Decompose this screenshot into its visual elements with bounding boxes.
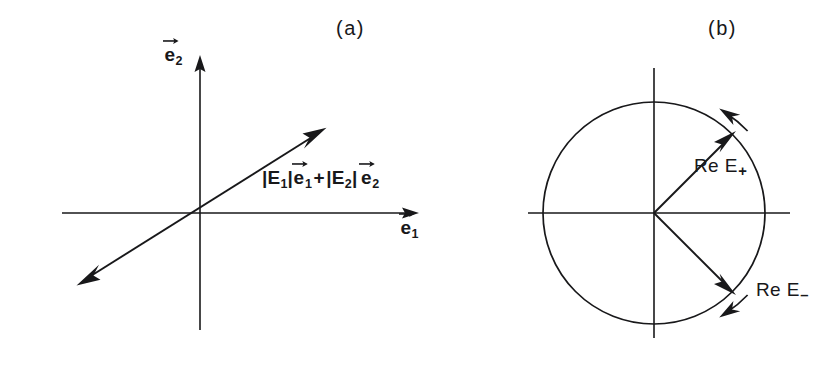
panel-b-graphics: [528, 68, 790, 338]
unit-e1-sub: 1: [305, 177, 312, 191]
panel-a-axis-label-e1-base: e: [401, 217, 412, 238]
re-e-minus-sign: –: [800, 287, 809, 303]
panel-a-graphics: [62, 55, 419, 330]
re-e-plus-prefix: Re E: [694, 155, 738, 176]
unit-e2-sub: 2: [372, 177, 379, 191]
panel-b-re-e-plus-label: Re E+: [694, 156, 747, 175]
panel-a-field-vector-line: [86, 134, 317, 279]
vector-accent-group: e: [400, 218, 412, 237]
vector-accent-group: e: [360, 168, 372, 187]
re-e-plus-sign: +: [738, 163, 748, 179]
panel-a-axis-label-e2-base: e: [165, 44, 176, 65]
panel-b-rotation-arrowhead-cw-icon: [719, 301, 740, 317]
abs-e2-close: |: [352, 167, 358, 188]
vector-accent-group: e: [293, 168, 305, 187]
panel-a-axis-label-e2: e2: [164, 45, 183, 64]
panel-b-re-e-minus-label: Re E–: [756, 280, 809, 299]
panel-b-re-e-minus-vector: [654, 213, 748, 317]
panel-a-x-axis: [62, 208, 419, 219]
abs-e2-open: |E: [326, 167, 344, 188]
figure-container: (a) (b) e2 e1 |E1|e1+|E2|e2 Re E+ Re E–: [0, 0, 835, 376]
figure-vector-graphics: [0, 0, 835, 376]
panel-a-axis-label-e2-sub: 2: [176, 54, 183, 68]
unit-e1-base: e: [294, 167, 305, 188]
panel-a-vector-arrowhead-lower-icon: [77, 265, 101, 286]
re-e-minus-prefix: Re E: [756, 279, 800, 300]
panel-b-rotation-arrowhead-ccw-icon: [719, 109, 740, 125]
panel-a-axis-label-e1-sub: 1: [412, 227, 419, 241]
panel-a-field-vector: [77, 128, 327, 286]
panel-b-re-e-minus-line: [654, 213, 728, 287]
abs-e1-sub: 1: [280, 177, 287, 191]
plus-operator: +: [312, 167, 326, 188]
panel-a-field-vector-label: |E1|e1+|E2|e2: [262, 168, 379, 187]
unit-e2-base: e: [361, 167, 372, 188]
panel-b-re-e-plus-line: [654, 139, 728, 213]
panel-a-vector-arrowhead-upper-icon: [303, 128, 327, 149]
panel-b-tag: (b): [708, 18, 737, 38]
panel-a-y-axis: [195, 55, 206, 330]
panel-a-axis-label-e1: e1: [400, 218, 419, 237]
abs-e1-open: |E: [262, 167, 280, 188]
panel-a-tag: (a): [336, 18, 365, 38]
abs-e2-sub: 2: [345, 177, 352, 191]
vector-accent-group: e: [164, 45, 176, 64]
